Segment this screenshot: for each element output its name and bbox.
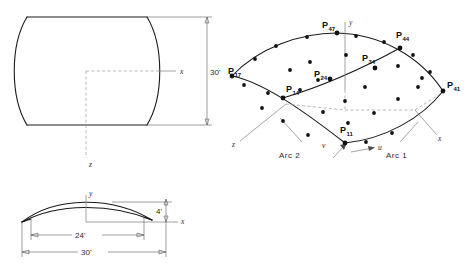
control-net-dot bbox=[411, 53, 415, 57]
figure-root: x z 30' y x bbox=[0, 0, 468, 272]
patch-x-axis-label: x bbox=[437, 134, 442, 143]
control-point-subscript-p34: 34 bbox=[369, 59, 376, 65]
control-point-dot-p34 bbox=[373, 66, 378, 71]
control-net-dot bbox=[305, 35, 309, 39]
elevation-y-axis-label: y bbox=[88, 189, 93, 198]
patch-base-dashed-diagonal bbox=[415, 96, 437, 110]
control-point-dot-p24 bbox=[328, 77, 333, 82]
control-net-dot bbox=[308, 60, 312, 64]
control-net-dot bbox=[346, 121, 350, 125]
control-net-dot bbox=[354, 34, 358, 38]
elevation-view-group: y x 4' 24' 30' bbox=[22, 189, 185, 257]
patch-edge-top-right bbox=[337, 33, 443, 91]
patch-u-axis-label: u bbox=[378, 143, 382, 152]
arc-2-label: Arc 2 bbox=[279, 151, 300, 160]
control-point-label-p41: P41 bbox=[447, 80, 461, 92]
control-net-dot bbox=[306, 133, 310, 137]
plan-view-group: x z 30' bbox=[14, 17, 221, 169]
patch-edge-top-left bbox=[232, 33, 337, 76]
figure-canvas: x z 30' y x bbox=[0, 0, 468, 272]
control-point-subscript-p41: 41 bbox=[454, 86, 461, 92]
control-point-subscript-p17: 17 bbox=[235, 72, 242, 78]
patch-base-dashed-left bbox=[286, 104, 345, 110]
control-net-dot bbox=[396, 97, 400, 101]
patch-z-axis-label: z bbox=[231, 140, 235, 149]
elevation-arc-inner bbox=[22, 207, 152, 222]
control-point-dot-p14 bbox=[281, 96, 286, 101]
plan-z-axis-label: z bbox=[88, 160, 92, 169]
elevation-dim-4-label: 4' bbox=[156, 207, 162, 216]
patch-edge-bottom-right bbox=[345, 91, 443, 143]
control-point-subscript-p47: 47 bbox=[329, 26, 336, 32]
control-net-dot bbox=[344, 53, 348, 57]
control-point-label-p14: P14 bbox=[286, 84, 300, 96]
control-net-dot bbox=[416, 85, 420, 89]
control-point-subscript-p11: 11 bbox=[347, 131, 354, 137]
patch-u-axis-arrowhead bbox=[368, 146, 375, 151]
control-point-label-p44: P44 bbox=[396, 30, 410, 42]
control-net-dot bbox=[390, 131, 394, 135]
control-point-label-p24: P24 bbox=[314, 69, 328, 81]
control-net-dot bbox=[343, 99, 347, 103]
control-net-dot bbox=[420, 76, 424, 80]
control-point-dot-p44 bbox=[398, 46, 403, 51]
control-point-label-p11: P11 bbox=[340, 125, 354, 137]
control-net-dots bbox=[242, 34, 432, 144]
control-point-dot-p41 bbox=[441, 89, 446, 94]
labelled-control-points: P17P47P44P41P34P24P14P11 bbox=[228, 20, 461, 145]
control-net-dot bbox=[281, 119, 285, 123]
elevation-arc-outer bbox=[22, 202, 152, 222]
control-net-dot bbox=[364, 140, 368, 144]
elevation-dim-30-label: 30' bbox=[81, 248, 92, 257]
plan-outline-left bbox=[14, 17, 27, 125]
control-net-dot bbox=[274, 44, 278, 48]
control-net-dot bbox=[288, 68, 292, 72]
control-net-dot bbox=[242, 83, 246, 87]
patch-x-axis-line bbox=[415, 110, 437, 135]
control-point-subscript-p44: 44 bbox=[403, 36, 410, 42]
control-net-dot bbox=[382, 40, 386, 44]
elevation-dim-24-label: 24' bbox=[75, 231, 86, 240]
control-net-dot bbox=[363, 85, 367, 89]
control-point-label-p34: P34 bbox=[362, 53, 376, 65]
surface-patch-group: y z x u v Arc 2 Arc 1 P17P47P44 bbox=[228, 18, 461, 160]
plan-x-axis-label: x bbox=[179, 67, 184, 76]
arc-1-label: Arc 1 bbox=[386, 151, 407, 160]
elevation-x-axis-label: x bbox=[180, 217, 185, 226]
control-net-dot bbox=[428, 70, 432, 74]
control-net-dot bbox=[253, 57, 257, 61]
control-point-label-p47: P47 bbox=[322, 20, 336, 32]
control-net-dot bbox=[260, 106, 264, 110]
control-net-dot bbox=[396, 64, 400, 68]
control-point-subscript-p14: 14 bbox=[293, 90, 300, 96]
control-net-dot bbox=[372, 111, 376, 115]
patch-y-axis-label: y bbox=[348, 18, 353, 27]
control-net-dot bbox=[266, 91, 270, 95]
plan-dim-30-label: 30' bbox=[210, 68, 221, 77]
patch-v-axis-label: v bbox=[322, 141, 326, 150]
control-net-dot bbox=[321, 110, 325, 114]
control-point-dot-p47 bbox=[335, 31, 340, 36]
control-point-dot-p11 bbox=[343, 141, 348, 146]
control-point-subscript-p24: 24 bbox=[321, 75, 328, 81]
